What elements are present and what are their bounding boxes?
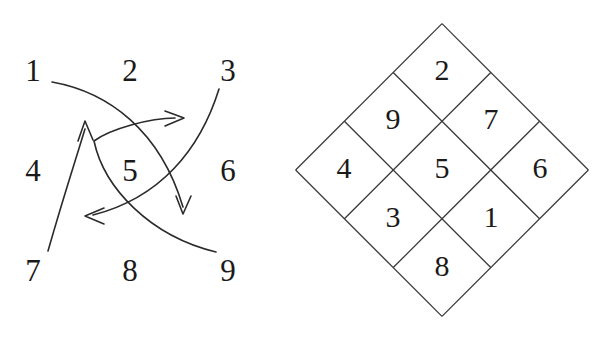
left-panel-arrows (0, 0, 290, 342)
lattice-line-h1 (393, 72, 539, 218)
lattice-numbers: 297456318 (337, 53, 548, 282)
lattice-cell-8: 8 (435, 249, 450, 282)
lattice-line-h0 (442, 24, 588, 170)
lattice-cell-6: 6 (533, 151, 548, 184)
lattice-cell-2: 2 (435, 53, 450, 86)
grid-number-1: 1 (25, 55, 41, 86)
arrow-from-7-to-up-head (78, 121, 93, 141)
lattice-line-v3 (442, 170, 588, 316)
arrow-from-3-to-left-curve (93, 89, 219, 215)
right-panel: 297456318 (290, 0, 601, 342)
lattice-cell-7: 7 (484, 102, 499, 135)
left-panel: 123456789 (0, 0, 290, 342)
grid-number-8: 8 (122, 255, 138, 286)
grid-number-5: 5 (122, 155, 138, 186)
lattice-cell-1: 1 (484, 200, 499, 233)
figure-root: 123456789 297456318 (0, 0, 601, 342)
arrow-from-1-to-down-head (176, 196, 191, 214)
lattice-cell-4: 4 (337, 151, 352, 184)
lattice-svg: 297456318 (290, 0, 601, 342)
lattice-line-v0 (296, 24, 442, 170)
lattice-line-h3 (296, 170, 442, 316)
arrow-from-1-to-down-curve (52, 82, 183, 207)
lattice-line-h2 (344, 121, 490, 267)
lattice-cell-9: 9 (386, 102, 401, 135)
arrow-from-3-to-left (85, 89, 219, 224)
grid-number-2: 2 (122, 55, 138, 86)
arrow-from-7-to-up (48, 121, 93, 251)
arrow-from-7-to-up-curve (48, 129, 85, 251)
lattice-line-v1 (344, 72, 490, 218)
grid-number-4: 4 (25, 155, 41, 186)
lattice-cell-3: 3 (386, 200, 401, 233)
grid-number-6: 6 (220, 155, 236, 186)
arrow-from-9-to-right (94, 111, 216, 252)
grid-number-7: 7 (25, 255, 41, 286)
grid-number-3: 3 (220, 55, 236, 86)
grid-number-9: 9 (220, 255, 236, 286)
lattice-cell-5: 5 (435, 151, 450, 184)
arrow-from-3-to-left-head (85, 208, 104, 224)
lattice-line-v2 (393, 121, 539, 267)
